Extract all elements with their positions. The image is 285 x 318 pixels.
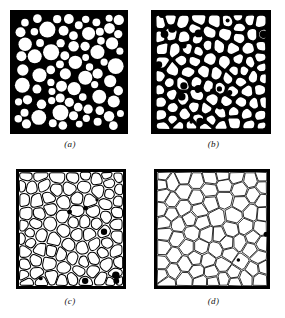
grain-particle bbox=[80, 42, 89, 51]
grain-particle bbox=[64, 14, 74, 24]
grain-particle bbox=[91, 81, 98, 88]
grain-particle bbox=[69, 31, 78, 40]
grain-particle bbox=[16, 51, 26, 61]
grain bbox=[91, 173, 102, 185]
grain-particle bbox=[82, 16, 89, 23]
panel-a-microstructure bbox=[10, 10, 128, 134]
pore bbox=[168, 25, 176, 33]
grain-particle bbox=[23, 95, 32, 104]
pore bbox=[217, 103, 223, 109]
grain bbox=[101, 238, 113, 248]
grain-particle bbox=[22, 119, 31, 128]
grain bbox=[31, 193, 43, 207]
grain bbox=[25, 228, 35, 237]
pore bbox=[210, 88, 215, 93]
grain-particle bbox=[15, 115, 23, 123]
grain bbox=[247, 28, 257, 41]
pore bbox=[195, 89, 199, 93]
grain bbox=[20, 207, 32, 220]
grain bbox=[156, 43, 168, 55]
grain-particle bbox=[53, 105, 69, 121]
grain-particle bbox=[76, 121, 83, 128]
sintering-stages-figure: (a) (b) (c) (d) bbox=[0, 0, 285, 318]
grain-particle bbox=[49, 119, 57, 127]
grain-particle bbox=[56, 81, 67, 92]
grain bbox=[245, 15, 255, 26]
grain bbox=[80, 215, 90, 228]
grain bbox=[77, 181, 91, 193]
grain-particle bbox=[82, 54, 89, 61]
grain-particle bbox=[36, 39, 44, 47]
grain-particle bbox=[94, 118, 102, 126]
pore bbox=[195, 29, 203, 37]
grain bbox=[257, 207, 267, 221]
grain bbox=[256, 41, 266, 51]
grain-particle bbox=[83, 105, 92, 114]
grain bbox=[233, 33, 245, 44]
pore bbox=[82, 278, 88, 284]
grain bbox=[111, 207, 122, 218]
grain-particle bbox=[114, 86, 123, 95]
grain bbox=[181, 66, 195, 77]
grain-particle bbox=[39, 22, 55, 38]
grain bbox=[113, 196, 122, 206]
panel-a bbox=[10, 10, 128, 134]
pore bbox=[180, 82, 187, 89]
grain bbox=[241, 108, 252, 119]
grain bbox=[235, 96, 247, 107]
pore bbox=[95, 198, 98, 201]
grain-particle bbox=[56, 39, 64, 47]
grain-particle bbox=[82, 27, 95, 40]
grain bbox=[68, 217, 78, 228]
grain-particle bbox=[97, 37, 105, 45]
grain bbox=[19, 180, 25, 192]
grain-particle bbox=[117, 110, 124, 117]
grain-particle bbox=[75, 21, 83, 29]
grain-particle bbox=[69, 111, 78, 120]
pore bbox=[155, 61, 162, 68]
grain bbox=[254, 110, 266, 120]
pore bbox=[217, 86, 222, 91]
pore bbox=[190, 120, 193, 123]
grain-particle bbox=[60, 51, 69, 60]
panel-b bbox=[151, 10, 271, 134]
grain bbox=[20, 173, 33, 181]
grain-particle bbox=[47, 79, 54, 86]
grain bbox=[228, 106, 239, 116]
pore bbox=[101, 229, 107, 235]
grain-particle bbox=[56, 60, 64, 68]
panel-c bbox=[16, 169, 126, 289]
grain-particle bbox=[53, 15, 61, 23]
pore bbox=[39, 277, 43, 281]
grain-particle bbox=[104, 111, 114, 121]
grain-particle bbox=[114, 30, 122, 38]
pore bbox=[181, 42, 187, 48]
grain-particle bbox=[48, 88, 55, 95]
grain-particle bbox=[21, 19, 29, 27]
grain-particle bbox=[68, 82, 81, 95]
grain-particle bbox=[79, 93, 87, 101]
grain bbox=[43, 257, 57, 270]
grain bbox=[105, 189, 115, 199]
grain-particle bbox=[68, 41, 79, 52]
grain-particle bbox=[16, 27, 26, 37]
grain-particle bbox=[18, 38, 31, 51]
grain-particle bbox=[31, 110, 46, 125]
grain-particle bbox=[108, 96, 120, 108]
panel-caption-d: (d) bbox=[142, 296, 285, 307]
grain-particle bbox=[33, 14, 42, 23]
grain-particle bbox=[17, 64, 28, 75]
grain bbox=[76, 241, 88, 254]
grain-particle bbox=[48, 97, 55, 104]
grain bbox=[203, 53, 216, 66]
grain-particle bbox=[43, 44, 59, 60]
grain-particle bbox=[59, 26, 69, 36]
pore bbox=[83, 206, 88, 211]
grain bbox=[115, 184, 123, 195]
grain bbox=[240, 66, 249, 76]
grain-particle bbox=[86, 63, 93, 70]
grain-particle bbox=[109, 121, 118, 130]
grain-particle bbox=[15, 78, 30, 93]
pore bbox=[113, 278, 119, 284]
grain bbox=[57, 195, 71, 209]
